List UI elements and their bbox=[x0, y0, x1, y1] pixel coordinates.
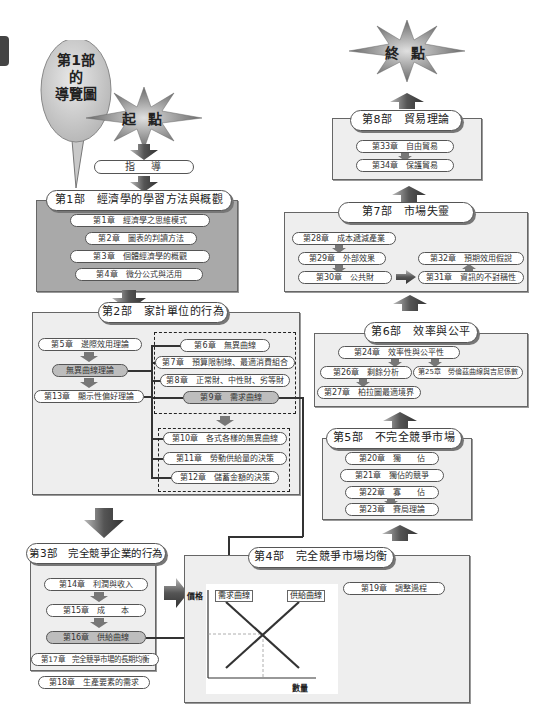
part8-chapter-33[interactable]: 第33章 自由貿易 bbox=[356, 140, 454, 153]
part2-chapter-10[interactable]: 第10章 各式各樣的無異曲線 bbox=[163, 432, 287, 445]
part2-chapter-5[interactable]: 第5章 邊際效用理論 bbox=[38, 338, 142, 351]
part6-chapter-26[interactable]: 第26章 剩餘分析 bbox=[320, 366, 412, 379]
guide-pill[interactable]: 指 導 bbox=[94, 160, 194, 174]
part3-chapter-14[interactable]: 第14章 利潤與收入 bbox=[44, 578, 148, 591]
graph-xlabel: 數量 bbox=[292, 682, 308, 693]
arrow-up-icon bbox=[392, 186, 426, 202]
part1-title[interactable]: 第1部 經濟學的學習方法與概觀 bbox=[46, 190, 232, 211]
part5-chapter-20[interactable]: 第20章 獨 佔 bbox=[345, 452, 439, 465]
part3-chapter-17[interactable]: 第17章 完全競爭市場的長期均衡 bbox=[31, 653, 159, 666]
arrow-right-icon bbox=[396, 270, 416, 284]
part3-chapter-16[interactable]: 第16章 供給曲線 bbox=[46, 631, 146, 644]
demand-link-line bbox=[302, 397, 304, 537]
guide-bubble-line1: 第1部 bbox=[46, 52, 106, 69]
part2-chapter-12[interactable]: 第12章 儲蓄金額的決策 bbox=[171, 471, 279, 484]
arrow-down-icon bbox=[84, 508, 124, 538]
arrow-down-icon bbox=[130, 144, 158, 160]
part4-chapter-19[interactable]: 第19章 調整過程 bbox=[343, 582, 445, 595]
part6-chapter-24[interactable]: 第24章 效率性與公平性 bbox=[338, 346, 460, 359]
guide-bubble-line2: 的 bbox=[46, 69, 106, 86]
part2-chapter-7[interactable]: 第7章 預算限制線、最適消費組合 bbox=[155, 356, 295, 369]
part8-chapter-34[interactable]: 第34章 保護貿易 bbox=[356, 159, 454, 172]
part7-chapter-31[interactable]: 第31章 資訊的不對稱性 bbox=[418, 271, 524, 284]
part3-chapter-18[interactable]: 第18章 生產要素的需求 bbox=[38, 676, 150, 689]
part1-chapter-1[interactable]: 第1章 經濟學之思維模式 bbox=[70, 214, 210, 227]
arrow-up-icon bbox=[383, 412, 417, 428]
part2-chapter-6[interactable]: 第6章 無異曲線 bbox=[180, 339, 270, 352]
part2-chapter-11[interactable]: 第11章 勞動供給量的決策 bbox=[163, 452, 287, 465]
part1-chapter-2[interactable]: 第2章 圖表的判讀方法 bbox=[85, 232, 197, 245]
part2-chapter-9[interactable]: 第9章 需求曲線 bbox=[183, 391, 279, 404]
demand-curve-label: 需求曲線 bbox=[215, 590, 253, 602]
demand-link-line bbox=[279, 397, 303, 399]
part7-chapter-30[interactable]: 第30章 公共財 bbox=[298, 271, 392, 284]
arrow-up-icon bbox=[393, 295, 427, 311]
part1-chapter-3[interactable]: 第3章 個體經濟學的概觀 bbox=[70, 250, 210, 263]
part5-chapter-21[interactable]: 第21章 獨佔的競爭 bbox=[340, 469, 444, 482]
part2-chapter-8[interactable]: 第8章 正常財、中性財、劣等財 bbox=[160, 374, 290, 387]
part2-indifference-theory[interactable]: 無異曲線理論 bbox=[52, 364, 128, 377]
demand-link-line bbox=[228, 536, 303, 538]
page-tab-marker bbox=[0, 36, 9, 66]
arrow-down-icon bbox=[90, 592, 108, 602]
start-label: 起 點 bbox=[112, 108, 176, 128]
arrow-down-icon bbox=[80, 378, 98, 388]
part3-chapter-15[interactable]: 第15章 成 本 bbox=[46, 604, 146, 617]
part7-chapter-28[interactable]: 第28章 成本遞減產業 bbox=[292, 232, 396, 245]
graph-ylabel: 價格 bbox=[187, 590, 203, 601]
part7-chapter-29[interactable]: 第29章 外部效果 bbox=[298, 252, 386, 265]
end-label: 終 點 bbox=[375, 42, 439, 62]
part5-chapter-23[interactable]: 第23章 賽局理論 bbox=[345, 503, 439, 516]
part6-chapter-27[interactable]: 第27章 柏拉圖最適境界 bbox=[317, 386, 421, 399]
part4-title[interactable]: 第4部 完全競爭市場均衡 bbox=[248, 547, 394, 568]
arrow-down-icon bbox=[90, 618, 108, 628]
part6-chapter-25[interactable]: 第25章 勞倫茲曲線與吉尼係數 bbox=[413, 366, 523, 379]
part2-title[interactable]: 第2部 家計單位的行為 bbox=[98, 302, 228, 323]
part2-chapter-13[interactable]: 第13章 顯示性偏好理論 bbox=[34, 390, 144, 403]
arrow-up-icon bbox=[382, 525, 418, 541]
connector-line bbox=[128, 370, 152, 372]
arrow-down-icon bbox=[216, 416, 234, 426]
part5-title[interactable]: 第5部 不完全競爭市場 bbox=[326, 428, 462, 449]
part6-title[interactable]: 第6部 效率與公平 bbox=[364, 322, 478, 343]
arrow-up-icon bbox=[390, 93, 424, 109]
arrow-down-icon bbox=[80, 352, 98, 362]
part8-title[interactable]: 第8部 貿易理論 bbox=[350, 110, 462, 131]
part3-title[interactable]: 第3部 完全競爭企業的行為 bbox=[26, 543, 166, 564]
part1-chapter-4[interactable]: 第4章 微分公式與活用 bbox=[75, 268, 203, 281]
part7-title[interactable]: 第7部 市場失靈 bbox=[338, 202, 474, 223]
supply-curve-label: 供給曲線 bbox=[287, 590, 325, 602]
